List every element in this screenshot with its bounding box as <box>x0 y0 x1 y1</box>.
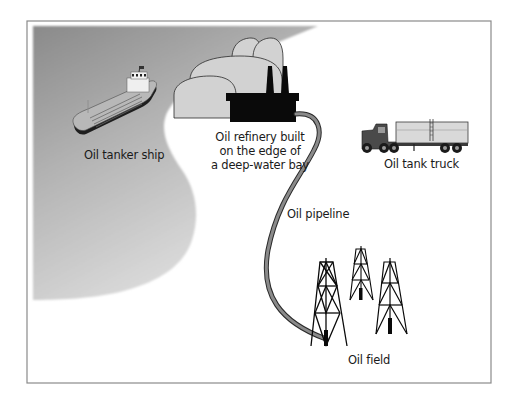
oil-transport-diagram: Oil tanker ship Oil refinery built on th… <box>0 0 513 407</box>
oil-field-label: Oil field <box>348 353 390 367</box>
truck-label: Oil tank truck <box>384 157 459 171</box>
refinery-label-line-1: Oil refinery built <box>200 130 320 144</box>
refinery-label-line-2: on the edge of <box>200 144 320 158</box>
tanker-label: Oil tanker ship <box>84 148 164 162</box>
refinery-label-line-3: a deep-water bay <box>200 158 320 172</box>
refinery-label: Oil refinery built on the edge of a deep… <box>200 130 320 172</box>
pipeline-label: Oil pipeline <box>287 207 349 221</box>
diagram-canvas <box>0 0 513 407</box>
